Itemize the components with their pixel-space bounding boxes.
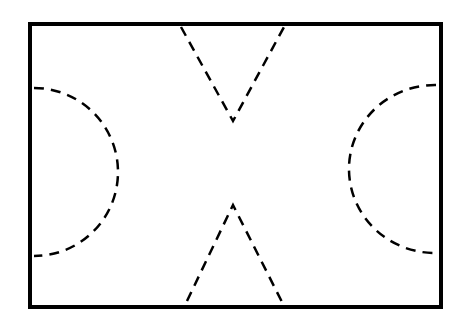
bottom-v-dashed-line: [187, 205, 282, 302]
top-v-dashed-line: [181, 27, 284, 121]
right-semicircle-dashed-arc: [349, 85, 436, 253]
field-diagram-svg: [0, 0, 460, 323]
field-diagram: [0, 0, 460, 323]
left-semicircle-dashed-arc: [34, 88, 118, 256]
field-boundary: [30, 24, 441, 307]
